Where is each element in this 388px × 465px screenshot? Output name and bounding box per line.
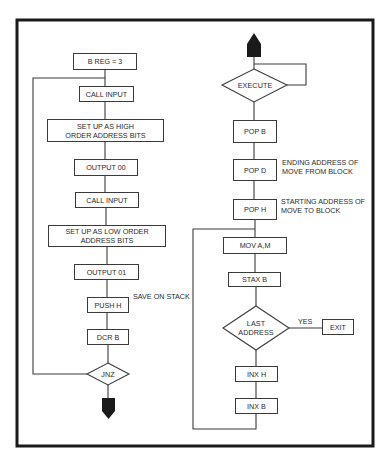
setup-low-line2: ADDRESS BITS [81,236,134,245]
last-address-line1: LAST [226,319,286,328]
pop-h-label: POP H [244,205,266,214]
mov-a-m-label: MOV A,M [240,241,271,250]
inx-h-label: INX H [247,370,266,379]
ending-address-note: ENDING ADDRESS OF MOVE FROM BLOCK [282,158,358,176]
pop-d-box: POP D [233,159,277,181]
exit-box: EXIT [322,319,354,335]
output-00-box: OUTPUT 00 [74,159,138,176]
down-arrow-icon [102,398,115,419]
setup-high-line1: SET UP AS HIGH [77,122,134,131]
setup-high-line2: ORDER ADDRESS BITS [65,131,145,140]
b-reg-label: B REG = 3 [88,57,123,66]
inx-b-box: INX B [235,398,278,414]
pop-b-box: POP B [233,120,277,143]
call-input-label-2: CALL INPUT [86,196,127,205]
execute-label: EXECUTE [224,81,286,90]
stax-b-box: STAX B [228,272,281,287]
setup-high-box: SET UP AS HIGH ORDER ADDRESS BITS [47,119,164,142]
setup-low-box: SET UP AS LOW ORDER ADDRESS BITS [48,225,166,247]
jnz-label: JNZ [88,370,128,379]
pop-h-box: POP H [233,199,277,220]
exit-label: EXIT [330,323,346,332]
push-h-box: PUSH H [87,297,129,313]
up-arrow-icon [247,33,261,57]
pop-b-label: POP B [244,127,266,136]
stax-b-label: STAX B [242,275,267,284]
inx-h-box: INX H [235,366,278,382]
push-h-label: PUSH H [94,301,121,310]
call-input-box-2: CALL INPUT [75,192,139,208]
dcr-b-label: DCR B [97,333,119,342]
output-00-label: OUTPUT 00 [86,163,125,172]
last-address-line2: ADDRESS [226,328,286,337]
ending-address-line2: MOVE FROM BLOCK [282,167,358,176]
setup-low-line1: SET UP AS LOW ORDER [65,227,148,236]
save-on-stack-note: SAVE ON STACK [133,292,190,301]
ending-address-line1: ENDING ADDRESS OF [282,158,358,167]
starting-address-line1: STARTING ADDRESS OF [281,197,365,206]
pop-d-label: POP D [244,166,266,175]
output-01-box: OUTPUT 01 [74,264,139,280]
b-reg-box: B REG = 3 [73,53,137,70]
output-01-label: OUTPUT 01 [87,268,126,277]
yes-label: YES [298,317,312,326]
starting-address-line2: MOVE TO BLOCK [281,206,365,215]
inx-b-label: INX B [247,402,266,411]
last-address-label: LAST ADDRESS [226,319,286,337]
dcr-b-box: DCR B [87,329,129,345]
starting-address-note: STARTING ADDRESS OF MOVE TO BLOCK [281,197,365,215]
call-input-label-1: CALL INPUT [86,90,127,99]
call-input-box-1: CALL INPUT [79,86,134,102]
mov-a-m-box: MOV A,M [223,237,287,254]
